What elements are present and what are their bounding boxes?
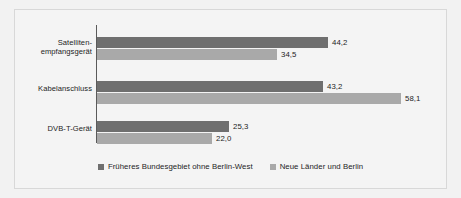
category-label-satelliten: Satelliten- empfangsgerät <box>6 38 92 57</box>
bar-kabelanschluss-neue <box>97 93 401 104</box>
value-label-dvbt-neue: 22,0 <box>216 133 231 144</box>
value-label-kabelanschluss-neue: 58,1 <box>405 93 420 104</box>
category-label-line: DVB-T-Gerät <box>6 124 92 133</box>
legend-label: Früheres Bundesgebiet ohne Berlin-West <box>108 162 253 171</box>
bar-satelliten-neue <box>97 49 277 60</box>
category-label-line: empfangsgerät <box>6 47 92 56</box>
bar-dvbt-neue <box>97 133 212 144</box>
legend-label: Neue Länder und Berlin <box>280 162 363 171</box>
value-label-dvbt-frueheres: 25,3 <box>233 121 248 132</box>
legend-swatch-icon <box>98 164 104 170</box>
chart-legend: Früheres Bundesgebiet ohne Berlin-West N… <box>0 162 461 171</box>
bar-chart: Satelliten- empfangsgerät Kabelanschluss… <box>0 0 461 198</box>
bar-satelliten-frueheres <box>97 37 328 48</box>
bar-dvbt-frueheres <box>97 121 229 132</box>
value-label-satelliten-neue: 34,5 <box>281 49 296 60</box>
value-label-kabelanschluss-frueheres: 43,2 <box>327 81 342 92</box>
category-label-kabelanschluss: Kabelanschluss <box>6 84 92 93</box>
legend-entry-neue-laender[interactable]: Neue Länder und Berlin <box>270 162 363 171</box>
bar-kabelanschluss-frueheres <box>97 81 323 92</box>
category-label-line: Satelliten- <box>6 38 92 47</box>
legend-entry-frueheres-bundesgebiet[interactable]: Früheres Bundesgebiet ohne Berlin-West <box>98 162 253 171</box>
category-label-dvbt: DVB-T-Gerät <box>6 124 92 133</box>
value-label-satelliten-frueheres: 44,2 <box>332 37 347 48</box>
legend-swatch-icon <box>270 164 276 170</box>
category-label-line: Kabelanschluss <box>6 84 92 93</box>
